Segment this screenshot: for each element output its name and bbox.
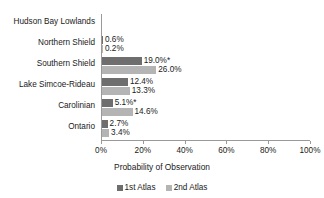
bar-1st-atlas-northern-shield [102,36,103,44]
x-axis-line [101,140,310,141]
legend-item-2nd-atlas: 2nd Atlas [166,183,208,192]
bar-value-2nd-atlas-southern-shield: 26.0% [158,66,181,74]
bar-1st-atlas-southern-shield [102,57,142,65]
bar-2nd-atlas-carolinian [102,108,133,116]
bar-value-1st-atlas-lake-simcoe-rideau: 12.4% [130,78,153,86]
x-axis-tick-label-40: 40% [165,146,205,155]
bar-1st-atlas-carolinian [102,99,113,107]
y-axis-label-southern-shield: Southern Shield [0,59,95,68]
x-axis-tick-60 [226,141,227,144]
x-axis-tick-80 [268,141,269,144]
chart-legend: 1st Atlas 2nd Atlas [0,183,324,192]
x-axis-tick-label-100: 100% [290,146,324,155]
legend-label-2nd-atlas: 2nd Atlas [174,183,208,192]
legend-item-1st-atlas: 1st Atlas [117,183,156,192]
x-axis-tick-label-80: 80% [248,146,288,155]
bar-value-2nd-atlas-lake-simcoe-rideau: 13.3% [132,87,155,95]
bar-value-2nd-atlas-carolinian: 14.6% [135,108,158,116]
x-axis-tick-label-60: 60% [206,146,246,155]
legend-swatch-icon-1st-atlas [117,185,123,191]
y-axis-label-northern-shield: Northern Shield [0,38,95,47]
x-axis-tick-100 [310,141,311,144]
bar-value-1st-atlas-southern-shield: 19.0%* [144,57,170,65]
x-axis-title: Probability of Observation [0,162,324,172]
y-axis-label-ontario: Ontario [0,122,95,131]
x-axis-tick-label-20: 20% [123,146,163,155]
y-axis-category-labels: Hudson Bay Lowlands Northern Shield Sout… [0,14,98,140]
y-axis-label-lake-simcoe-rideau: Lake Simcoe-Rideau [0,80,95,89]
bar-value-2nd-atlas-ontario: 3.4% [111,129,130,137]
bar-2nd-atlas-lake-simcoe-rideau [102,87,130,95]
legend-swatch-icon-2nd-atlas [166,185,172,191]
y-axis-label-carolinian: Carolinian [0,101,95,110]
x-axis-tick-20 [143,141,144,144]
bar-2nd-atlas-ontario [102,129,109,137]
plot-area: 0.6% 0.2% 19.0%* 26.0% 12.4% 13.3% 5.1%*… [101,14,310,140]
bar-2nd-atlas-southern-shield [102,66,156,74]
x-axis-tick-0 [101,141,102,144]
legend-label-1st-atlas: 1st Atlas [125,183,156,192]
bar-1st-atlas-ontario [102,120,108,128]
bar-value-1st-atlas-carolinian: 5.1%* [115,99,137,107]
x-axis-tick-40 [185,141,186,144]
bar-value-2nd-atlas-northern-shield: 0.2% [105,45,124,53]
bar-chart: Hudson Bay Lowlands Northern Shield Sout… [0,0,324,198]
bar-value-1st-atlas-ontario: 2.7% [110,120,129,128]
x-axis-tick-label-0: 0% [81,146,121,155]
y-axis-label-hudson-bay-lowlands: Hudson Bay Lowlands [0,17,95,26]
bar-1st-atlas-lake-simcoe-rideau [102,78,128,86]
bar-value-1st-atlas-northern-shield: 0.6% [105,36,124,44]
